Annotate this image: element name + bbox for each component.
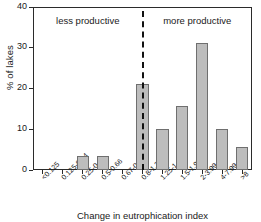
- y-tick-label: 0: [22, 164, 27, 174]
- bar: [196, 43, 208, 170]
- annotation-more-productive: more productive: [163, 15, 231, 26]
- bar: [156, 129, 168, 170]
- annotation-less-productive: less productive: [56, 15, 119, 26]
- y-tick-line: [29, 129, 33, 130]
- x-axis-title: Change in eutrophication index: [33, 210, 252, 221]
- bar: [216, 129, 228, 170]
- y-tick-label: 10: [17, 123, 27, 133]
- y-tick-label: 30: [17, 41, 27, 51]
- bar: [77, 156, 89, 170]
- y-axis-title: % of lakes: [4, 33, 15, 103]
- divider-dashed-line: [142, 11, 144, 170]
- y-tick-label: 20: [17, 82, 27, 92]
- y-tick-label: 40: [17, 1, 27, 11]
- bar: [176, 106, 188, 170]
- y-tick-line: [29, 88, 33, 89]
- x-tick-label: >8: [239, 170, 250, 181]
- y-tick-line: [29, 170, 33, 171]
- y-tick-line: [29, 7, 33, 8]
- eutrophication-index-histogram: % of lakes 010203040 <0.1250.125-0.240.2…: [0, 0, 261, 222]
- bar: [97, 156, 109, 170]
- y-tick-line: [29, 47, 33, 48]
- bar: [236, 147, 248, 170]
